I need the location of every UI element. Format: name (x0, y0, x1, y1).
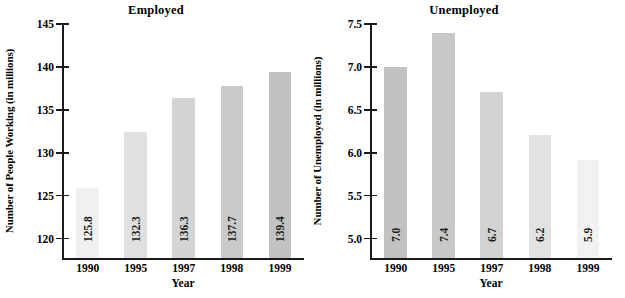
bar-value-label: 6.2 (534, 228, 546, 242)
bar-slot-employed-1999: 139.41999 (256, 24, 304, 258)
y-axis-title-unemployed-wrap: Number of Unemployed (in millions) (308, 18, 326, 263)
y-tick-label: 125 (37, 190, 54, 202)
y-tick-label: 7.0 (348, 61, 362, 73)
bar-value-label: 132.3 (130, 217, 142, 243)
bar[interactable]: 7.0 (384, 67, 407, 259)
bar-slot-unemployed-1997: 6.71997 (468, 24, 516, 258)
bar[interactable]: 136.3 (172, 98, 195, 258)
x-axis-line-employed (62, 258, 304, 260)
y-tick-label: 135 (37, 104, 54, 116)
y-tick-label: 6.0 (348, 147, 362, 159)
bar[interactable]: 6.2 (529, 135, 552, 259)
x-tick-label: 1997 (172, 262, 195, 274)
y-tick-label: 5.0 (348, 233, 362, 245)
bar-slot-employed-1990: 125.81990 (64, 24, 112, 258)
bar[interactable]: 125.8 (76, 188, 99, 259)
x-tick-label: 1995 (124, 262, 147, 274)
x-tick-label: 1998 (528, 262, 551, 274)
bar-value-label: 5.9 (582, 228, 594, 242)
x-tick-label: 1990 (384, 262, 407, 274)
bar-value-label: 139.4 (274, 217, 286, 243)
bar-group-unemployed: 7.019907.419956.719976.219985.91999 (372, 24, 612, 258)
bar-group-employed: 125.81990132.31995136.31997137.71998139.… (64, 24, 304, 258)
bar-slot-unemployed-1990: 7.01990 (372, 24, 420, 258)
bar[interactable]: 6.7 (480, 92, 503, 258)
bar-slot-unemployed-1999: 5.91999 (564, 24, 612, 258)
chart-title-employed: Employed (0, 3, 312, 18)
bar-value-label: 136.3 (178, 217, 190, 243)
bar-slot-unemployed-1995: 7.41995 (420, 24, 468, 258)
y-tick-label: 120 (37, 233, 54, 245)
bar-value-label: 6.7 (486, 228, 498, 242)
bar-slot-employed-1997: 136.31997 (160, 24, 208, 258)
x-axis-title-unemployed: Year (370, 277, 612, 289)
bar[interactable]: 139.4 (269, 72, 292, 259)
x-tick-label: 1990 (76, 262, 99, 274)
y-axis-title-employed: Number of People Working (in millions) (3, 48, 15, 232)
bar-value-label: 7.4 (438, 228, 450, 242)
bar[interactable]: 7.4 (432, 33, 455, 259)
chart-panel-unemployed: Unemployed Number of Unemployed (in mill… (308, 0, 620, 298)
y-tick-label: 130 (37, 147, 54, 159)
x-tick-label: 1995 (432, 262, 455, 274)
y-tick-label: 145 (37, 18, 54, 30)
y-tick-label: 7.5 (348, 18, 362, 30)
y-axis-title-employed-wrap: Number of People Working (in millions) (0, 18, 18, 263)
bar-value-label: 125.8 (82, 217, 94, 243)
x-tick-label: 1998 (220, 262, 243, 274)
bar-slot-employed-1995: 132.31995 (112, 24, 160, 258)
bar[interactable]: 137.7 (221, 86, 244, 258)
y-tick-label: 6.5 (348, 104, 362, 116)
chart-title-unemployed: Unemployed (308, 3, 620, 18)
x-tick-label: 1997 (480, 262, 503, 274)
x-tick-label: 1999 (268, 262, 291, 274)
bar[interactable]: 132.3 (124, 132, 147, 258)
bar-slot-employed-1998: 137.71998 (208, 24, 256, 258)
bar-value-label: 7.0 (390, 228, 402, 242)
bar[interactable]: 5.9 (577, 160, 600, 258)
y-axis-title-unemployed: Number of Unemployed (in millions) (311, 56, 323, 225)
bar-slot-unemployed-1998: 6.21998 (516, 24, 564, 258)
x-tick-label: 1999 (576, 262, 599, 274)
x-axis-line-unemployed (370, 258, 612, 260)
chart-panel-employed: Employed Number of People Working (in mi… (0, 0, 312, 298)
y-tick-label: 140 (37, 61, 54, 73)
y-tick-label: 5.5 (348, 190, 362, 202)
bar-value-label: 137.7 (226, 217, 238, 243)
plot-area-employed: 120125130135140145125.81990132.31995136.… (62, 24, 304, 260)
figure-two-bar-charts: Employed Number of People Working (in mi… (0, 0, 625, 298)
x-axis-title-employed: Year (62, 277, 304, 289)
plot-area-unemployed: 5.05.56.06.57.07.57.019907.419956.719976… (370, 24, 612, 260)
